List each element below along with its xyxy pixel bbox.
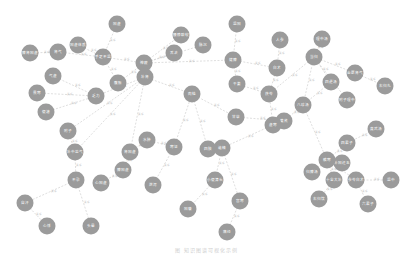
edge-label: 关系 (219, 161, 225, 165)
graph-node[interactable]: 当归 (306, 49, 323, 66)
graph-node[interactable]: 补肾 (137, 69, 154, 86)
edge-label: 关系 (279, 51, 285, 55)
graph-node[interactable]: 手足不温 (95, 49, 112, 66)
node-label: 温中 (387, 177, 395, 182)
graph-node[interactable]: 脾肾阳虚 (22, 45, 39, 62)
graph-node[interactable]: 肾气 (50, 44, 67, 61)
graph-node[interactable]: 心悸 (39, 218, 56, 235)
node-label: 白术 (273, 65, 281, 70)
graph-node[interactable]: 八珍汤 (295, 97, 312, 114)
graph-node[interactable]: 肾阳虚 (122, 144, 139, 161)
graph-node[interactable]: 泄泻 (145, 177, 162, 194)
graph-node[interactable]: 温阳 (229, 16, 246, 33)
node-label: 参苓白术 (348, 177, 364, 182)
graph-node[interactable]: 附子理中 (339, 92, 356, 109)
node-label: 便溏 (42, 109, 50, 114)
edge-label: 关系 (110, 38, 116, 42)
graph-node[interactable]: 痛经 (219, 224, 236, 241)
edge-label: 关系 (164, 163, 170, 167)
graph-node[interactable]: 右归饮 (311, 191, 328, 208)
graph-node[interactable]: 归脾汤 (304, 164, 321, 181)
graph-node[interactable]: 气虚 (45, 68, 62, 85)
graph-node[interactable]: 头晕 (83, 218, 100, 235)
graph-node[interactable]: 理中汤 (314, 31, 331, 48)
node-label: 腹胀 (114, 80, 122, 85)
edge-label: 关系 (71, 101, 77, 105)
graph-node[interactable]: 右归丸 (377, 78, 394, 95)
graph-node[interactable]: 附子 (60, 123, 77, 140)
node-label: 干姜 (233, 81, 241, 86)
edge-label: 关系 (235, 69, 241, 73)
graph-node[interactable]: 虚寒 (265, 117, 282, 134)
edge-label: 关系 (255, 61, 261, 65)
graph-node[interactable]: 金匮肾气 (347, 65, 364, 82)
graph-node[interactable]: 茯苓 (261, 86, 278, 103)
graph-node[interactable]: 补中益气 (67, 144, 84, 161)
edge-label: 关系 (67, 92, 73, 96)
node-label: 理中汤 (316, 36, 328, 41)
graph-node[interactable]: 不孕 (68, 172, 85, 189)
edge-label: 关系 (131, 70, 137, 74)
graph-node[interactable]: 遗精 (214, 140, 231, 157)
graph-node[interactable]: 畏寒 (29, 85, 46, 102)
graph-node[interactable]: 参苓白术 (348, 172, 365, 189)
graph-node[interactable]: 阳虚 (109, 16, 126, 33)
graph-node[interactable]: 脉沉 (195, 37, 212, 54)
graph-node[interactable]: 健脾 (225, 52, 242, 69)
graph-node[interactable]: 四逆汤 (323, 74, 340, 91)
edge-label: 关系 (374, 177, 380, 181)
graph-node[interactable]: 真武汤 (368, 121, 385, 138)
graph-node[interactable]: 白术 (269, 60, 286, 77)
graph-node[interactable]: 自汗 (17, 195, 34, 212)
node-label: 阳痿 (184, 206, 192, 211)
node-label: 痛经 (223, 229, 231, 234)
node-label: 畏寒 (33, 90, 41, 95)
graph-node[interactable]: 便溏 (38, 104, 55, 121)
graph-node[interactable]: 阳虚体质 (70, 37, 87, 54)
edge-label: 关系 (292, 73, 298, 77)
graph-node[interactable]: 腰膝酸软 (173, 27, 190, 44)
node-label: 水肿 (143, 137, 151, 142)
edge-label: 关系 (309, 78, 315, 82)
graph-node[interactable]: 六君子 (360, 196, 377, 213)
node-label: 八珍汤 (297, 102, 309, 107)
node-layer: 阳虚脾肾阳虚肾气阳虚体质气虚手足不温腹胀畏寒乏力便溏神疲腰膝酸软脉沉舌淡温阳健脾… (17, 16, 400, 241)
graph-node[interactable]: 人参 (272, 32, 289, 49)
node-label: 甘草 (232, 114, 240, 119)
graph-node[interactable]: 散寒 (319, 152, 336, 169)
node-label: 当归 (310, 54, 318, 59)
edge-label: 关系 (44, 50, 50, 54)
graph-node[interactable]: 干姜 (229, 76, 246, 93)
graph-node[interactable]: 心阳虚 (93, 175, 110, 192)
node-label: 阳虚 (113, 21, 121, 26)
node-label: 肾气 (54, 49, 62, 54)
edge-label: 关系 (231, 172, 237, 176)
graph-node[interactable]: 脾阳虚 (115, 162, 132, 179)
edge-label: 关系 (370, 77, 376, 81)
graph-node[interactable]: 宫寒 (232, 193, 249, 210)
graph-node[interactable]: 十全大补 (326, 172, 343, 189)
graph-node[interactable]: 舌淡 (166, 45, 183, 62)
graph-node[interactable]: 小便清长 (207, 172, 224, 189)
edge-label: 关系 (76, 163, 82, 167)
graph-node[interactable]: 温中 (383, 172, 400, 189)
node-label: 阳虚体质 (70, 42, 86, 47)
graph-node[interactable]: 阳痿 (180, 201, 197, 218)
graph-node[interactable]: 水肿 (139, 132, 156, 149)
graph-node[interactable]: 腹胀 (110, 75, 127, 92)
graph-node[interactable]: 寒证 (166, 139, 183, 156)
node-label: 四君子 (341, 140, 353, 145)
node-label: 补中益气 (67, 149, 83, 154)
edge-layer: 关系关系关系关系关系关系关系关系关系关系关系关系关系关系关系关系关系关系关系关系… (25, 24, 391, 232)
graph-node[interactable]: 补阳还五 (334, 155, 351, 172)
graph-node[interactable]: 四君子 (339, 135, 356, 152)
edge-label: 关系 (111, 67, 117, 71)
graph-node[interactable]: 乏力 (88, 88, 105, 105)
node-label: 六君子 (362, 201, 374, 206)
graph-node[interactable]: 甘草 (228, 109, 245, 126)
node-label: 茯苓 (265, 91, 273, 96)
edge-label: 关系 (110, 112, 116, 116)
node-label: 附子 (64, 128, 72, 133)
knowledge-graph: 关系关系关系关系关系关系关系关系关系关系关系关系关系关系关系关系关系关系关系关系… (0, 0, 413, 257)
graph-node[interactable]: 肉桂 (184, 86, 201, 103)
